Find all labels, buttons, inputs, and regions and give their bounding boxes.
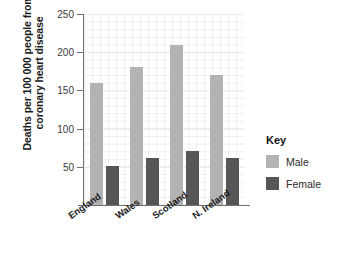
- bar-male: [170, 45, 183, 205]
- y-axis-tick: [77, 52, 84, 53]
- bar-female: [146, 158, 159, 205]
- y-axis-tick-label: 150: [34, 85, 74, 96]
- y-axis-tick: [77, 14, 84, 15]
- bar-female: [106, 166, 119, 205]
- y-axis-tick-label: 200: [34, 47, 74, 58]
- bar-group: [124, 14, 164, 205]
- bar-group: [84, 14, 124, 205]
- bar-male: [210, 75, 223, 205]
- legend: Key MaleFemale: [266, 134, 352, 199]
- bar-male: [130, 67, 143, 205]
- legend-swatch-male: [266, 155, 279, 168]
- y-axis-tick: [77, 167, 84, 168]
- bar-group: [204, 14, 244, 205]
- y-axis-tick: [77, 90, 84, 91]
- y-axis-tick-label: 100: [34, 123, 74, 134]
- legend-entries: MaleFemale: [266, 155, 352, 190]
- legend-label: Male: [286, 156, 309, 168]
- y-axis-tick-label: 50: [34, 161, 74, 172]
- y-axis-tick: [77, 129, 84, 130]
- legend-swatch-female: [266, 177, 279, 190]
- y-axis-title-line-2: coronary heart disease: [33, 17, 45, 130]
- bars-layer: [84, 14, 244, 205]
- y-axis-title-line-1: Deaths per 100 000 people from: [21, 0, 33, 151]
- bar-chart: Deaths per 100 000 people from coronary …: [0, 0, 354, 263]
- legend-item: Male: [266, 155, 352, 168]
- legend-title: Key: [266, 134, 352, 146]
- y-axis-tick-label: 250: [34, 9, 74, 20]
- bar-male: [90, 83, 103, 205]
- bar-group: [164, 14, 204, 205]
- legend-item: Female: [266, 177, 352, 190]
- legend-label: Female: [286, 178, 321, 190]
